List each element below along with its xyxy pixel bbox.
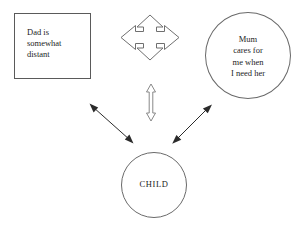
node-child-label: CHILD — [140, 179, 169, 191]
diagram-canvas: Dad is somewhat distant Mum cares for me… — [0, 0, 296, 227]
connector-dad-child-arrow — [90, 104, 134, 144]
connector-dad-mum-four-way-arrow-icon — [121, 15, 179, 60]
connector-mum-child-arrow — [172, 105, 212, 144]
node-dad-label: Dad is somewhat distant — [27, 27, 61, 60]
node-dad[interactable]: Dad is somewhat distant — [14, 13, 91, 79]
connector-parents-child-vertical-arrow-icon — [147, 84, 156, 121]
node-mum-label: Mum cares for me when I need her — [231, 34, 265, 80]
node-mum[interactable]: Mum cares for me when I need her — [205, 12, 291, 99]
node-child[interactable]: CHILD — [121, 152, 187, 218]
